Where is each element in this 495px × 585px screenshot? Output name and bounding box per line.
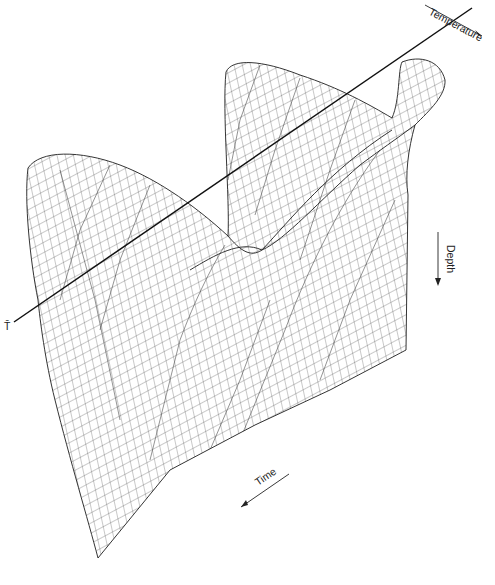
temperature-depth-time-surface: T̄ Temperature Depth Time: [0, 0, 495, 585]
temperature-label: Temperature: [427, 5, 485, 43]
time-axis-indicator: Time: [241, 465, 289, 507]
wireframe-surface: [0, 0, 495, 585]
mean-temperature-label: T̄: [4, 320, 11, 332]
temperature-axis-indicator: Temperature: [425, 5, 485, 44]
depth-axis-indicator: Depth: [435, 232, 457, 286]
depth-label: Depth: [445, 245, 457, 273]
